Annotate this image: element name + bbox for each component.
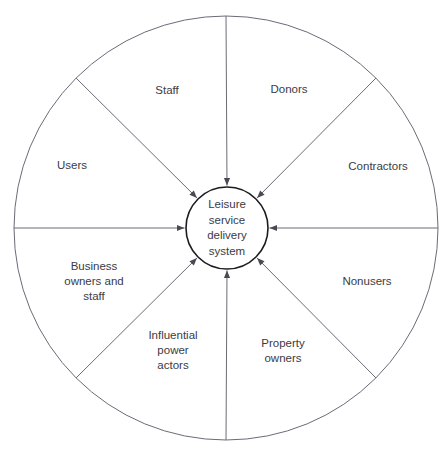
stakeholder-wheel-diagram: Leisure service delivery system StaffDon… — [0, 0, 447, 453]
spoke-line-property-owners — [226, 271, 227, 441]
spoke-arrowhead-contractors — [270, 225, 278, 231]
spoke-arrowhead-staff — [224, 178, 230, 186]
spoke-line-nonusers — [257, 258, 376, 378]
spoke-line-staff — [226, 16, 227, 186]
core-system-label: Leisure service delivery system — [184, 197, 270, 259]
spoke-line-influential-power-actors — [76, 258, 197, 378]
spoke-line-donors — [257, 78, 376, 198]
spoke-arrowhead-property-owners — [224, 271, 230, 279]
spoke-line-users — [76, 78, 197, 198]
